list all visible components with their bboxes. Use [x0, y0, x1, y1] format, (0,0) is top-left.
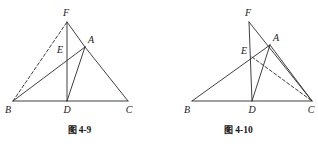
figure-4-9: B D C F A E 图4-9 [0, 0, 159, 151]
vertex-label-A: A [273, 33, 279, 43]
vertex-label-C: C [126, 105, 133, 115]
vertex-label-B: B [5, 105, 11, 115]
caption-cjk-label: 图 [68, 125, 77, 135]
vertex-label-D: D [63, 105, 70, 115]
figure-caption: 图4-10 [159, 126, 318, 136]
vertex-label-D: D [248, 105, 255, 115]
segment-cevian-FD [249, 22, 252, 101]
segment-cevian-BA [192, 45, 270, 101]
vertex-label-F: F [63, 8, 69, 18]
caption-cjk-label: 图 [224, 125, 233, 135]
vertex-label-F: F [245, 8, 251, 18]
figure-caption: 图4-9 [0, 126, 159, 136]
vertex-label-A: A [88, 35, 94, 45]
vertex-label-E: E [57, 45, 63, 55]
segment-cevian-AD [252, 45, 270, 101]
segment-side-FA [67, 22, 85, 47]
segment-side-AC [85, 47, 128, 101]
figure-4-10: B D C F A E 图4-10 [159, 0, 318, 151]
caption-number: 4-9 [79, 125, 92, 135]
caption-number: 4-10 [235, 125, 252, 135]
segment-cevian-AD [67, 47, 85, 101]
vertex-label-E: E [241, 46, 247, 56]
segment-dashed-BF [13, 22, 67, 101]
vertex-label-C: C [308, 105, 315, 115]
figure-sheet: B D C F A E 图4-9 B D C F A E 图4-10 [0, 0, 318, 151]
vertex-label-B: B [184, 105, 190, 115]
segment-side-AC [270, 45, 312, 101]
segment-cevian-BA [13, 47, 85, 101]
